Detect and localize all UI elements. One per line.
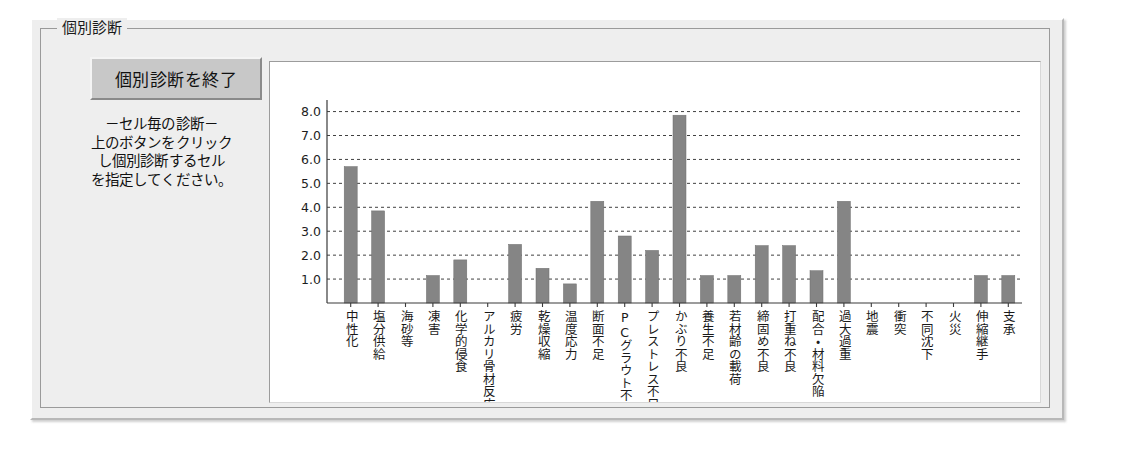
x-axis-category-label: 化学的侵食 [453,310,466,373]
bar [344,167,357,303]
window-frame: 個別診断 個別診断を終了 －セル毎の診断－ 上のボタンをクリック し個別診断する… [30,18,1064,420]
bar-chart: 1.02.03.04.05.06.07.08.0 中性化塩分供給海砂等凍害化学的… [270,62,1040,402]
x-axis-category-label: 火災 [947,310,960,335]
bar [618,236,631,303]
bar [810,271,823,303]
application-root: 個別診断 個別診断を終了 －セル毎の診断－ 上のボタンをクリック し個別診断する… [0,0,1127,451]
bar [454,260,467,303]
bar [646,250,659,303]
x-axis-category-label: 海砂等 [399,310,412,348]
bar [700,276,713,304]
bar [591,201,604,303]
bar [974,276,987,304]
bar [837,201,850,303]
bar [673,115,686,303]
y-axis-tick-label: 2.0 [301,248,321,263]
bar [563,284,576,303]
bar [509,244,522,303]
y-axis-tick-label: 1.0 [301,272,321,287]
x-axis-category-label: 支承 [1001,310,1014,335]
x-axis-category-label: 凍害 [426,310,439,335]
bar [728,276,741,304]
y-axis-tick-label: 4.0 [301,200,321,215]
x-axis-category-label: かぶり不良 [673,310,686,373]
x-axis-category-label: 打重ね不良 [782,310,795,373]
bar [426,276,439,304]
x-axis-category-label: 塩分供給 [371,310,384,360]
x-axis-category-label: 不同沈下 [919,310,932,360]
y-axis-tick-label: 5.0 [301,176,321,191]
x-axis-category-label: 疲労 [508,310,521,335]
bar [1002,276,1015,304]
instruction-text: －セル毎の診断－ 上のボタンをクリック し個別診断するセル を指定してください。 [59,115,264,189]
end-individual-diagnosis-button[interactable]: 個別診断を終了 [90,57,262,100]
groupbox-title: 個別診断 [57,18,127,38]
bar [372,211,385,303]
x-axis-category-label: アルカリ骨材反応 [481,310,494,403]
x-axis-category-label: プレストレス不足 [645,310,658,403]
x-axis-category-label: 養生不足 [700,310,713,360]
x-axis-category-label: 配合・材料欠陥 [810,310,823,398]
x-axis-category-label: 締固め不良 [755,310,768,373]
x-axis-category-label: PCグラウト不良 [618,310,631,403]
x-axis-category-label: 地震 [864,310,877,335]
x-axis-category-label: 乾燥収縮 [536,310,549,360]
x-axis-category-label: 温度応力 [563,310,576,360]
chart-panel[interactable]: 1.02.03.04.05.06.07.08.0 中性化塩分供給海砂等凍害化学的… [269,61,1041,403]
bar [783,246,796,303]
bar [755,246,768,303]
x-axis-category-label: 断面不足 [590,310,603,360]
x-axis-category-label: 若材齢の載荷 [727,310,740,385]
y-axis-tick-label: 3.0 [301,224,321,239]
x-axis-category-label: 過大過重 [837,310,850,360]
y-axis-tick-label: 6.0 [301,152,321,167]
x-axis-category-label: 衝突 [892,310,905,335]
x-axis-category-label: 伸縮継手 [974,310,987,360]
y-axis-tick-label: 8.0 [301,104,321,119]
x-axis-category-label: 中性化 [344,310,357,348]
y-axis-tick-label: 7.0 [301,128,321,143]
individual-diagnosis-groupbox: 個別診断 個別診断を終了 －セル毎の診断－ 上のボタンをクリック し個別診断する… [40,28,1050,408]
bar [536,268,549,303]
